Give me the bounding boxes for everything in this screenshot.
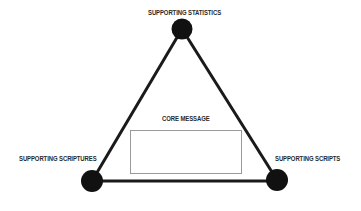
node-bottom-right-circle-icon: [266, 169, 288, 191]
label-core-message: CORE MESSAGE: [162, 115, 210, 122]
node-bottom-left-circle-icon: [81, 170, 103, 192]
node-top-circle-icon: [172, 19, 193, 40]
label-supporting-statistics: SUPPORTING STATISTICS: [148, 9, 221, 16]
triangle-diagram: [0, 0, 361, 211]
label-supporting-scripts: SUPPORTING SCRIPTS: [275, 155, 340, 162]
label-supporting-scriptures: SUPPORTING SCRIPTURES: [19, 155, 97, 162]
core-message-box: [130, 130, 242, 174]
